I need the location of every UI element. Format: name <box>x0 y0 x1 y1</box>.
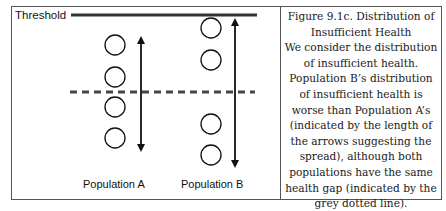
threshold-label: Threshold <box>15 9 66 21</box>
figure-caption: Figure 9.1c. Distribution of Insufficien… <box>283 9 439 211</box>
population-b-label: Population B <box>181 178 243 190</box>
frame-divider <box>280 6 281 200</box>
caption-title: Figure 9.1c. Distribution of Insufficien… <box>283 9 439 40</box>
caption-body: We consider the distribution of insuffic… <box>283 40 439 211</box>
population-a-label: Population A <box>83 178 145 190</box>
